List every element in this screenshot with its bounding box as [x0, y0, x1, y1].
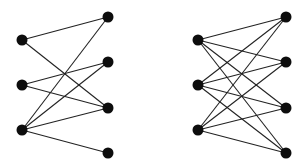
- edge-a3-b4: [22, 130, 108, 153]
- edge-c1-d1: [198, 17, 286, 40]
- node-a2: [17, 80, 28, 91]
- node-b1: [103, 12, 114, 23]
- partial-bipartite-graph: [17, 12, 114, 159]
- edge-c3-d1: [198, 17, 286, 130]
- edge-c3-d3: [198, 108, 286, 130]
- diagram-canvas: [0, 0, 308, 166]
- edge-c2-d1: [198, 17, 286, 85]
- node-a3: [17, 125, 28, 136]
- node-a1: [17, 35, 28, 46]
- complete-bipartite-graph-k34: [193, 12, 292, 159]
- edge-c3-d2: [198, 62, 286, 130]
- node-d2: [281, 57, 292, 68]
- node-c2: [193, 80, 204, 91]
- node-c3: [193, 125, 204, 136]
- edge-a3-b1: [22, 17, 108, 130]
- edge-c3-d4: [198, 130, 286, 153]
- node-d1: [281, 12, 292, 23]
- edge-a3-b3: [22, 108, 108, 130]
- node-d3: [281, 103, 292, 114]
- node-b4: [103, 148, 114, 159]
- edge-a1-b1: [22, 17, 108, 40]
- node-b3: [103, 103, 114, 114]
- edge-a3-b2: [22, 62, 108, 130]
- node-b2: [103, 57, 114, 68]
- node-c1: [193, 35, 204, 46]
- node-d4: [281, 148, 292, 159]
